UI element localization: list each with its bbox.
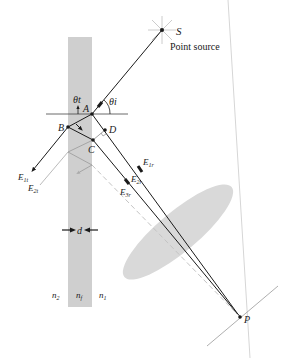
right-angle-mark — [101, 133, 106, 136]
point-P — [238, 315, 242, 319]
focal-plane-line — [207, 286, 278, 346]
label-E2t: E2t — [27, 183, 39, 194]
label-E1t: E1t — [17, 172, 29, 183]
source-label: S — [176, 25, 182, 37]
point-S — [160, 28, 164, 32]
thin-film-diagram: S Point source A B C D P θt θi E1t E2t E… — [0, 0, 291, 358]
ray-E1t — [33, 127, 68, 170]
label-n2: n2 — [52, 290, 60, 301]
E1r-arrowhead — [138, 166, 142, 172]
label-n1: n1 — [99, 290, 107, 301]
label-D: D — [108, 124, 117, 135]
point-C — [91, 138, 95, 142]
incident-ray — [92, 30, 162, 114]
point-B — [66, 125, 70, 129]
point-D — [103, 128, 107, 132]
label-theta-t: θt — [73, 94, 81, 105]
incident-arrowhead — [98, 102, 102, 107]
label-P: P — [243, 314, 250, 325]
wavefront-CD — [93, 130, 105, 140]
point-A — [90, 112, 94, 116]
label-B: B — [58, 122, 64, 133]
E2r-arrowhead — [125, 179, 129, 184]
source-caption: Point source — [170, 41, 220, 52]
label-A: A — [82, 103, 90, 114]
ray-E2r — [93, 140, 240, 317]
label-E3r: E3r — [119, 187, 132, 198]
label-C: C — [88, 144, 95, 155]
label-E2r: E2r — [130, 174, 143, 185]
label-E1r: E1r — [142, 157, 155, 168]
label-theta-i: θi — [109, 96, 117, 107]
